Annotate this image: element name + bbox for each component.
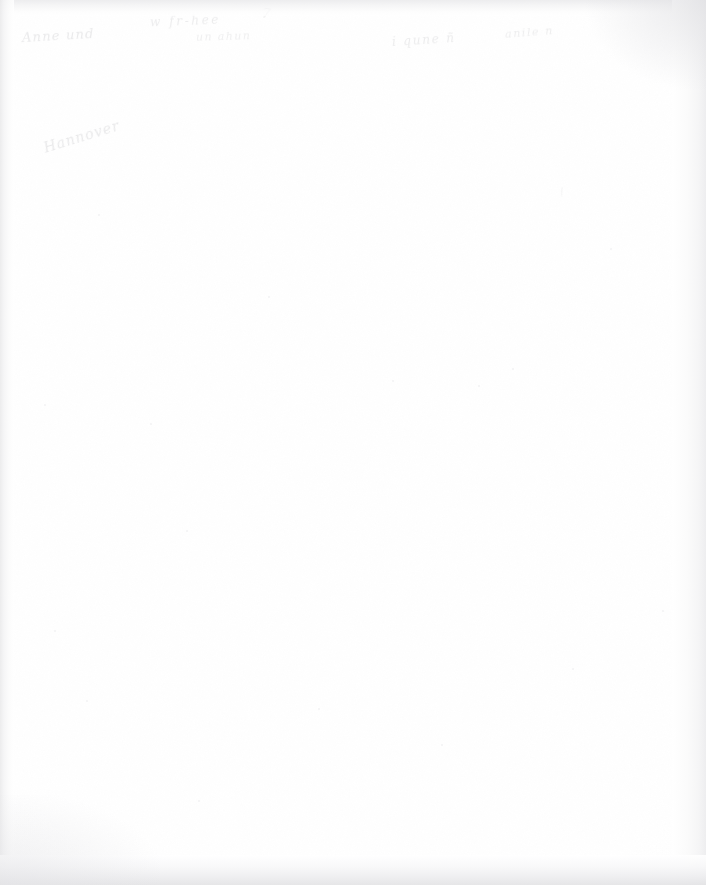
paper-background [0,0,706,885]
scanned-document-page: Anne und w fr-hee un ahun i qune ñ anile… [0,0,706,885]
